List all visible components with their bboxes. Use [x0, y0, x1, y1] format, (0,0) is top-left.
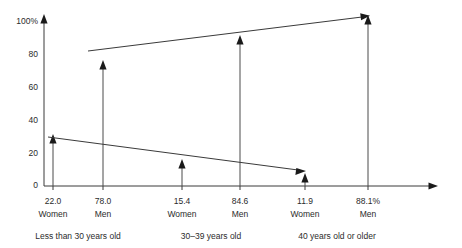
- category-value-labels: 22.0 78.0 15.4 84.6 11.9 88.1%: [45, 196, 381, 206]
- x-axis-ticks: [53, 186, 368, 190]
- trend-line-men: [88, 13, 370, 51]
- value-arrow-15-4-women: [178, 159, 185, 186]
- value-arrow-11-9-women: [301, 173, 308, 186]
- chart-container: 100% 80 60 40 20 0 22.0 78.0 15.4 84.6 1…: [0, 0, 462, 248]
- category-sex: Women: [38, 209, 67, 219]
- category-value: 15.4: [174, 196, 191, 206]
- value-arrow-78-0-men: [99, 60, 106, 186]
- y-tick-label: 40: [29, 115, 39, 125]
- y-axis-labels: 100% 80 60 40 20 0: [16, 16, 38, 190]
- y-axis: [40, 14, 47, 186]
- category-sex: Women: [290, 209, 319, 219]
- category-sex: Men: [232, 209, 249, 219]
- category-value: 22.0: [45, 196, 62, 206]
- age-group-label: Less than 30 years old: [35, 231, 121, 241]
- category-value: 11.9: [297, 196, 313, 206]
- chart-plot-area: 100% 80 60 40 20 0 22.0 78.0 15.4 84.6 1…: [0, 0, 462, 248]
- value-arrow-22-0-women: [49, 134, 56, 186]
- category-value: 88.1%: [356, 196, 381, 206]
- age-group-label: 40 years old or older: [298, 231, 376, 241]
- category-sex: Men: [95, 209, 112, 219]
- value-arrow-84-6-men: [236, 35, 243, 186]
- category-value: 84.6: [232, 196, 249, 206]
- y-tick-label: 60: [29, 82, 39, 92]
- value-arrow-88-1-men: [364, 15, 371, 186]
- trend-line-women: [48, 137, 306, 175]
- category-sex: Women: [167, 209, 196, 219]
- age-group-labels: Less than 30 years old 30–39 years old 4…: [35, 231, 376, 241]
- category-sex-labels: Women Men Women Men Women Men: [38, 209, 376, 219]
- age-group-label: 30–39 years old: [181, 231, 242, 241]
- y-tick-label: 20: [29, 148, 39, 158]
- y-tick-label: 0: [33, 180, 38, 190]
- y-tick-label: 100%: [16, 16, 38, 26]
- y-tick-label: 80: [29, 49, 39, 59]
- category-sex: Men: [360, 209, 377, 219]
- category-value: 78.0: [95, 196, 112, 206]
